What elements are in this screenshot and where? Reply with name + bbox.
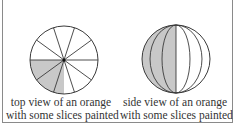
top-view-caption-line1: top view of an orange [6, 96, 116, 109]
side-view-orange-diagram [136, 19, 216, 99]
cut-off-text-left: — [3, 126, 15, 133]
top-view-caption: top view of an orange with some slices p… [6, 96, 116, 122]
side-view-caption-line1: side view of an orange [120, 96, 230, 109]
side-view-caption: side view of an orange with some slices … [120, 96, 230, 122]
top-view-orange-diagram [24, 20, 104, 100]
side-view-caption-line2: with some slices painted [120, 109, 230, 122]
top-view-caption-line2: with some slices painted [6, 109, 116, 122]
cut-off-text-right: — — [150, 126, 176, 133]
